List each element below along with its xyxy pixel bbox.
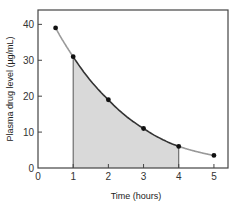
x-axis-label: Time (hours)	[111, 191, 162, 201]
y-tick-label: 10	[23, 127, 35, 138]
data-point	[176, 144, 181, 149]
auc-shaded-area	[73, 57, 179, 168]
curve-segment-pre	[56, 28, 74, 57]
data-point	[106, 97, 111, 102]
x-tick-label: 5	[211, 171, 217, 182]
x-tick-label: 1	[70, 171, 76, 182]
data-point	[53, 26, 58, 31]
y-tick-label: 0	[28, 163, 34, 174]
data-point	[212, 153, 217, 158]
y-tick-label: 30	[23, 55, 35, 66]
auc-chart: 012345 010203040 Time (hours) Plasma dru…	[0, 0, 234, 208]
y-tick-label: 20	[23, 91, 35, 102]
auc-fill	[73, 57, 179, 168]
x-tick-label: 0	[35, 171, 41, 182]
y-tick-label: 40	[23, 19, 35, 30]
y-axis-ticks: 010203040	[23, 19, 42, 174]
curve-segment-post	[179, 147, 214, 156]
x-tick-label: 4	[176, 171, 182, 182]
data-point	[141, 126, 146, 131]
y-axis-label: Plasma drug level (µg/mL)	[5, 36, 15, 141]
x-tick-label: 2	[106, 171, 112, 182]
data-point	[71, 54, 76, 59]
x-tick-label: 3	[141, 171, 147, 182]
